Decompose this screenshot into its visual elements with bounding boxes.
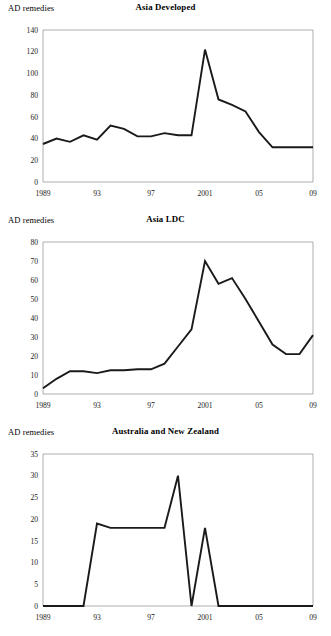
y-tick-label: 50 xyxy=(30,295,38,304)
x-tick-label: 1989 xyxy=(35,401,50,410)
y-tick-label: 20 xyxy=(30,352,38,361)
chart-panel-asia-ldc: AD remedies Asia LDC 0102030405060708019… xyxy=(0,212,331,424)
y-tick-label: 40 xyxy=(30,134,38,143)
x-tick-label: 05 xyxy=(255,401,263,410)
plot-area: 0204060801001201401989939720010509 xyxy=(0,22,331,212)
line-chart-svg-1: 010203040506070801989939720010509 xyxy=(0,234,331,424)
y-tick-label: 100 xyxy=(27,69,39,78)
x-tick-label: 93 xyxy=(93,613,101,622)
y-tick-label: 20 xyxy=(30,515,38,524)
x-tick-label: 1989 xyxy=(35,189,50,198)
x-tick-label: 93 xyxy=(93,401,101,410)
y-tick-label: 70 xyxy=(30,257,38,266)
plot-area: 051015202530351989939720010509 xyxy=(0,446,331,636)
y-tick-label: 30 xyxy=(30,333,38,342)
y-tick-label: 120 xyxy=(27,47,39,56)
y-tick-label: 5 xyxy=(34,580,38,589)
y-tick-label: 80 xyxy=(30,238,38,247)
panel-title: Asia LDC xyxy=(0,214,331,224)
y-tick-label: 15 xyxy=(30,537,38,546)
x-tick-label: 97 xyxy=(147,189,155,198)
x-tick-label: 09 xyxy=(309,613,317,622)
y-tick-label: 40 xyxy=(30,314,38,323)
figure-page: AD remedies Asia Developed 0204060801001… xyxy=(0,0,331,636)
y-tick-label: 60 xyxy=(30,113,38,122)
x-tick-label: 2001 xyxy=(197,401,212,410)
panel-header: AD remedies Asia LDC xyxy=(0,212,331,234)
data-series-line xyxy=(43,50,313,148)
y-tick-label: 0 xyxy=(34,178,38,187)
line-chart-svg-0: 0204060801001201401989939720010509 xyxy=(0,22,331,212)
x-tick-label: 09 xyxy=(309,401,317,410)
x-tick-label: 05 xyxy=(255,189,263,198)
x-tick-label: 93 xyxy=(93,189,101,198)
x-tick-label: 97 xyxy=(147,401,155,410)
chart-panel-australia-new-zealand: AD remedies Australia and New Zealand 05… xyxy=(0,424,331,636)
x-tick-label: 2001 xyxy=(197,189,212,198)
y-tick-label: 0 xyxy=(34,390,38,399)
y-tick-label: 30 xyxy=(30,471,38,480)
y-tick-label: 20 xyxy=(30,156,38,165)
panel-header: AD remedies Australia and New Zealand xyxy=(0,424,331,446)
y-tick-label: 10 xyxy=(30,371,38,380)
x-tick-label: 1989 xyxy=(35,613,50,622)
data-series-line xyxy=(43,476,313,606)
x-tick-label: 09 xyxy=(309,189,317,198)
y-tick-label: 10 xyxy=(30,558,38,567)
line-chart-svg-2: 051015202530351989939720010509 xyxy=(0,446,331,636)
y-tick-label: 140 xyxy=(27,26,39,35)
x-tick-label: 05 xyxy=(255,613,263,622)
y-tick-label: 60 xyxy=(30,276,38,285)
y-tick-label: 25 xyxy=(30,493,38,502)
y-tick-label: 35 xyxy=(30,450,38,459)
axis-frame xyxy=(43,30,313,182)
x-tick-label: 2001 xyxy=(197,613,212,622)
chart-panel-asia-developed: AD remedies Asia Developed 0204060801001… xyxy=(0,0,331,212)
y-tick-label: 0 xyxy=(34,602,38,611)
panel-title: Australia and New Zealand xyxy=(0,426,331,436)
panel-header: AD remedies Asia Developed xyxy=(0,0,331,22)
x-tick-label: 97 xyxy=(147,613,155,622)
panel-title: Asia Developed xyxy=(0,2,331,12)
data-series-line xyxy=(43,261,313,388)
plot-area: 010203040506070801989939720010509 xyxy=(0,234,331,424)
y-tick-label: 80 xyxy=(30,91,38,100)
